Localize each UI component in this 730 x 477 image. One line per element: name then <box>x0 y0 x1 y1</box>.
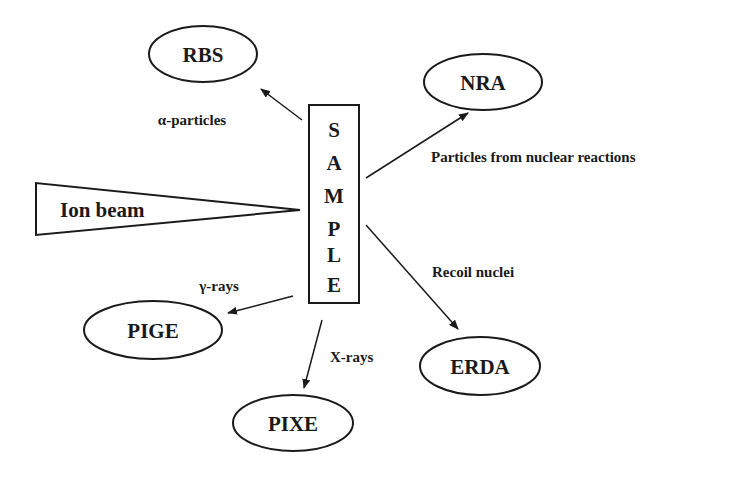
pixe-emission-label: X-rays <box>330 349 373 365</box>
pige-label: PIGE <box>127 319 178 343</box>
erda-emission-label: Recoil nuclei <box>432 264 514 280</box>
sample-letter: M <box>324 184 344 208</box>
nra-label: NRA <box>460 71 506 95</box>
technique-nra: NRA Particles from nuclear reactions <box>424 54 636 165</box>
ion-beam-label: Ion beam <box>60 198 145 222</box>
sample-box: S A M P L E <box>309 105 359 303</box>
technique-erda: ERDA Recoil nuclei <box>420 264 540 395</box>
arrow-pixe <box>304 320 322 388</box>
sample-letter: E <box>327 273 341 297</box>
sample-letter: L <box>327 243 341 267</box>
arrow-rbs <box>261 89 302 120</box>
ion-beam-analysis-diagram: Ion beam S A M P L E RBS α-particles NRA… <box>0 0 730 477</box>
pige-emission-label: γ-rays <box>198 278 239 294</box>
sample-letter: S <box>328 118 340 142</box>
ion-beam: Ion beam <box>36 183 300 235</box>
sample-letter: P <box>328 217 341 241</box>
technique-pixe: PIXE X-rays <box>233 349 373 451</box>
technique-rbs: RBS α-particles <box>149 26 257 128</box>
arrow-nra <box>366 113 468 178</box>
rbs-emission-label: α-particles <box>158 112 227 128</box>
pixe-label: PIXE <box>268 412 318 436</box>
nra-emission-label: Particles from nuclear reactions <box>431 149 636 165</box>
sample-letter: A <box>326 151 342 175</box>
technique-pige: PIGE γ-rays <box>84 278 239 359</box>
erda-label: ERDA <box>450 355 510 379</box>
arrow-pige <box>228 296 293 313</box>
rbs-label: RBS <box>183 43 224 67</box>
